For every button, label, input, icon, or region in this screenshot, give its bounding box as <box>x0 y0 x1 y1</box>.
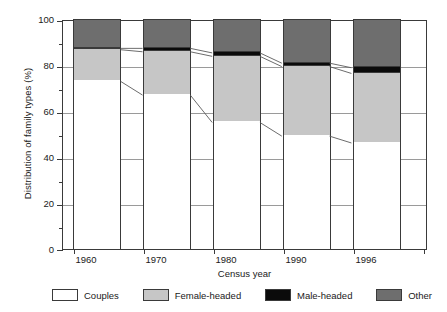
legend-label-female-headed: Female-headed <box>175 290 242 301</box>
bar-segment-male-headed-1970 <box>143 47 191 50</box>
y-tick-minor-90 <box>59 44 63 45</box>
y-axis-tick-labels: 100 80 60 40 20 0 <box>24 0 54 312</box>
bar-1980 <box>213 19 261 249</box>
y-tick-label-40: 40 <box>28 153 54 163</box>
plot-area <box>62 20 427 250</box>
bar-segment-other-1980 <box>213 19 261 51</box>
y-tick-label-100: 100 <box>28 15 54 25</box>
bar-segment-female-headed-1990 <box>283 65 331 135</box>
y-tick-minor-50 <box>59 136 63 137</box>
legend-label-other: Other <box>408 290 432 301</box>
bar-1996 <box>353 19 401 249</box>
bar-segment-couples-1960 <box>73 80 121 249</box>
legend-item-female-headed: Female-headed <box>143 289 242 301</box>
y-tick-minor-30 <box>59 182 63 183</box>
bar-segment-female-headed-1970 <box>143 50 191 94</box>
bar-segment-couples-1970 <box>143 94 191 249</box>
y-tick-label-20: 20 <box>28 199 54 209</box>
y-tick-label-0: 0 <box>28 245 54 255</box>
x-tick-label-1960: 1960 <box>56 254 116 265</box>
legend-item-male-headed: Male-headed <box>265 289 352 301</box>
bar-segment-male-headed-1990 <box>283 62 331 65</box>
bar-segment-other-1990 <box>283 19 331 62</box>
bar-segment-male-headed-1996 <box>353 66 401 72</box>
y-tick-label-80: 80 <box>28 61 54 71</box>
y-tick-minor-70 <box>59 90 63 91</box>
x-tick-label-1980: 1980 <box>196 254 256 265</box>
x-tick-label-1996: 1996 <box>336 254 396 265</box>
bar-segment-female-headed-1960 <box>73 48 121 80</box>
bar-segment-female-headed-1980 <box>213 55 261 122</box>
bar-segment-couples-1990 <box>283 135 331 249</box>
stacked-bar-chart: Distribution of family types (%) 100 80 … <box>0 0 447 312</box>
bar-1970 <box>143 19 191 249</box>
bar-segment-other-1960 <box>73 19 121 47</box>
legend-swatch-other-icon <box>376 289 402 301</box>
legend-label-couples: Couples <box>84 290 119 301</box>
x-tick-label-1990: 1990 <box>266 254 326 265</box>
y-tick-major-60 <box>57 113 63 114</box>
bar-segment-couples-1996 <box>353 142 401 249</box>
y-tick-minor-10 <box>59 228 63 229</box>
legend-swatch-male-headed-icon <box>265 289 291 301</box>
legend-item-other: Other <box>376 289 432 301</box>
x-tick-label-1970: 1970 <box>126 254 186 265</box>
y-tick-major-20 <box>57 205 63 206</box>
bar-1960 <box>73 19 121 249</box>
legend-item-couples: Couples <box>52 289 119 301</box>
x-tick-5 <box>424 249 425 254</box>
bar-segment-couples-1980 <box>213 121 261 249</box>
bar-1990 <box>283 19 331 249</box>
chart-legend: Couples Female-headed Male-headed Other <box>52 286 432 304</box>
x-axis-title: Census year <box>62 268 427 279</box>
legend-swatch-couples-icon <box>52 289 78 301</box>
y-tick-label-60: 60 <box>28 107 54 117</box>
bar-segment-male-headed-1960 <box>73 47 121 48</box>
y-tick-major-80 <box>57 67 63 68</box>
bar-segment-other-1996 <box>353 19 401 66</box>
bar-segment-female-headed-1996 <box>353 72 401 142</box>
y-tick-major-0 <box>57 250 63 251</box>
bar-segment-other-1970 <box>143 19 191 47</box>
legend-label-male-headed: Male-headed <box>297 290 352 301</box>
legend-swatch-female-headed-icon <box>143 289 169 301</box>
y-tick-major-100 <box>57 21 63 22</box>
y-tick-major-40 <box>57 159 63 160</box>
bar-segment-male-headed-1980 <box>213 51 261 54</box>
